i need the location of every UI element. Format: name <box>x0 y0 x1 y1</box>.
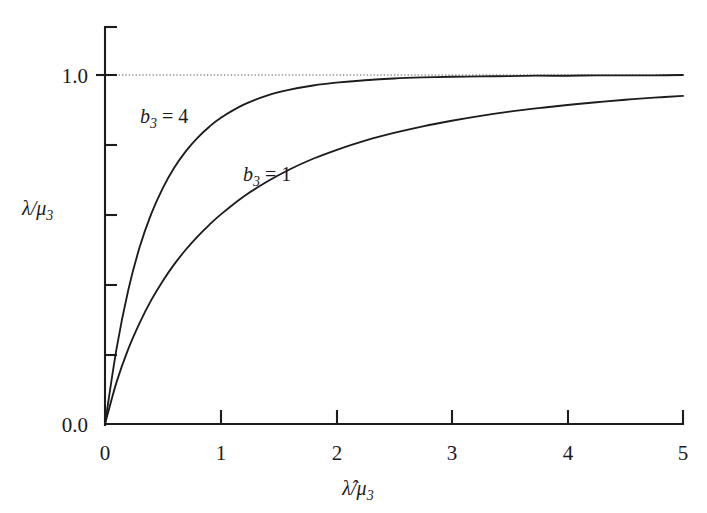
y-axis-title-base: λ/μ <box>21 197 46 220</box>
y-axis-title-subscript: 3 <box>45 208 53 223</box>
curve-label-b3-1: b3= 1 <box>243 163 291 189</box>
y-axis-title: λ/μ3 <box>21 197 53 223</box>
x-tick-label-3: 3 <box>447 441 458 465</box>
curve-label-b3-1-base: b <box>243 163 253 185</box>
x-axis-title-subscript: 3 <box>366 488 374 503</box>
x-tick-label-1: 1 <box>216 441 227 465</box>
x-tick-label-5: 5 <box>678 441 689 465</box>
curve-b3-4 <box>105 75 683 424</box>
curve-label-b3-4-value: = 4 <box>162 105 188 127</box>
curve-label-b3-1-value: = 1 <box>265 163 291 185</box>
figure-container: 1.0 0.0 0 1 2 3 4 5 λ/μ3 λ̂/μ3 b3= 4 b3=… <box>0 0 707 513</box>
curve-label-b3-4-base: b <box>140 105 150 127</box>
x-axis-title: λ̂/μ3 <box>341 477 373 503</box>
curve-label-b3-4-subscript: 3 <box>149 116 157 131</box>
y-axis-ticks <box>96 27 117 355</box>
curve-label-b3-4: b3= 4 <box>140 105 188 131</box>
chart-canvas: 1.0 0.0 0 1 2 3 4 5 λ/μ3 λ̂/μ3 b3= 4 b3=… <box>0 0 707 513</box>
x-tick-label-4: 4 <box>563 441 574 465</box>
curve-label-b3-1-subscript: 3 <box>252 174 260 189</box>
x-axis-title-base: λ̂/μ <box>341 477 366 500</box>
y-tick-label-1-0: 1.0 <box>62 64 88 88</box>
x-tick-label-2: 2 <box>332 441 343 465</box>
x-tick-label-0: 0 <box>100 441 111 465</box>
y-tick-label-0-0: 0.0 <box>62 413 88 437</box>
x-axis-ticks <box>221 410 683 424</box>
